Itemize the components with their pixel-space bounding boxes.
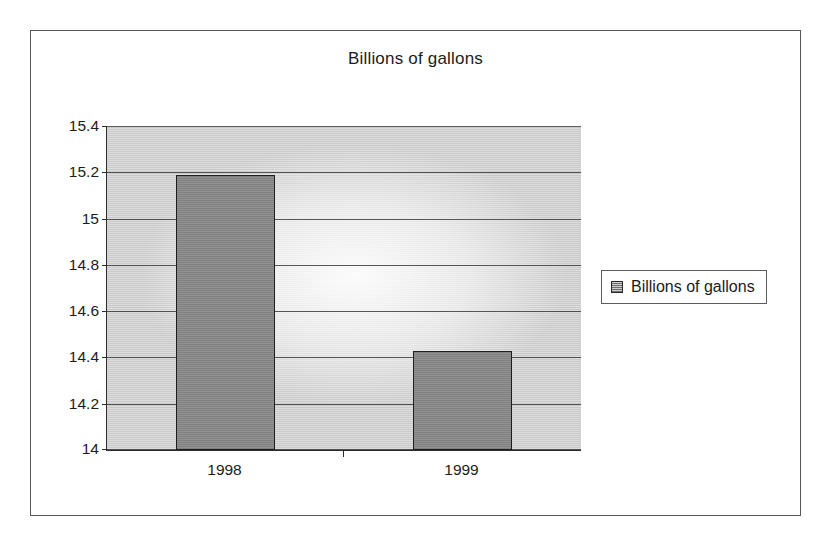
y-axis-label: 15 (82, 210, 99, 228)
gridline (107, 126, 581, 127)
y-axis-label: 14 (82, 440, 99, 458)
chart-frame: Billions of gallons 15.415.21514.814.614… (30, 30, 801, 516)
y-axis-label: 15.2 (69, 163, 99, 181)
x-axis-label: 1999 (444, 461, 478, 479)
y-axis-label: 14.4 (69, 348, 99, 366)
x-axis-labels: 19981999 (106, 461, 581, 487)
y-axis-labels: 15.415.21514.814.614.414.214 (31, 126, 99, 451)
legend-item-label: Billions of gallons (631, 278, 755, 296)
chart-title: Billions of gallons (31, 49, 800, 69)
y-axis-tick (102, 404, 107, 405)
series-swatch-icon (611, 281, 623, 293)
y-axis-tick (102, 357, 107, 358)
y-axis-label: 14.6 (69, 302, 99, 320)
y-axis-tick (102, 126, 107, 127)
y-axis-tick (102, 219, 107, 220)
x-axis-ticks (106, 451, 581, 459)
y-axis-label: 14.2 (69, 395, 99, 413)
y-axis-tick (102, 449, 107, 450)
y-axis-tick (102, 265, 107, 266)
x-axis-tick (343, 451, 344, 457)
gridline (107, 172, 581, 173)
x-axis-label: 1998 (207, 461, 241, 479)
plot-area (106, 126, 581, 451)
chart-legend: Billions of gallons (601, 270, 767, 304)
y-axis-label: 14.8 (69, 256, 99, 274)
bar-1998 (176, 175, 275, 450)
bar-1999 (413, 351, 512, 451)
y-axis-label: 15.4 (69, 117, 99, 135)
y-axis-tick (102, 311, 107, 312)
y-axis-tick (102, 172, 107, 173)
